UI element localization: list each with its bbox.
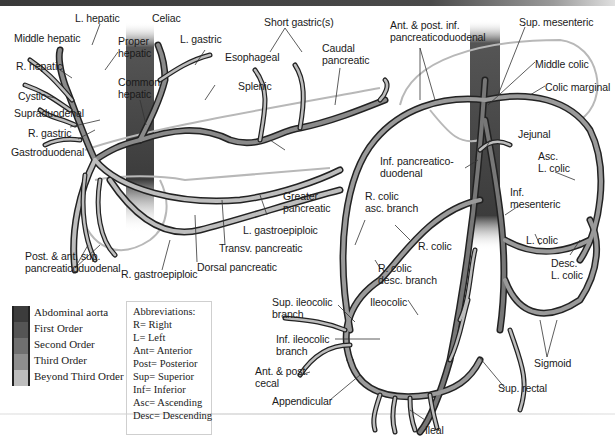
label-jejunal: Jejunal bbox=[518, 128, 551, 140]
label-gastroduodenal: Gastroduodenal bbox=[11, 146, 84, 158]
label-inf-pancreaticoduodenal: Inf. pancreatico- duodenal bbox=[380, 155, 454, 179]
abbrev-item: R= Right bbox=[133, 318, 211, 331]
label-cystic: Cystic bbox=[18, 90, 46, 102]
swatch-third-order bbox=[14, 354, 28, 370]
label-esophageal: Esophageal bbox=[225, 51, 279, 63]
swatch-beyond-third-order bbox=[14, 370, 28, 386]
label-dorsal-pancreatic: Dorsal pancreatic bbox=[197, 261, 277, 273]
label-r-gastric: R. gastric bbox=[28, 127, 71, 139]
label-l-colic: L. colic bbox=[526, 234, 558, 246]
label-sup-rectal: Sup. rectal bbox=[498, 382, 547, 394]
legend-label-third-order: Third Order bbox=[34, 354, 87, 366]
label-ileal: Ileal bbox=[425, 424, 444, 436]
label-common-hepatic: Common hepatic bbox=[118, 76, 160, 100]
abbreviations-title: Abbreviations: bbox=[133, 305, 211, 318]
label-asc-l-colic: Asc. L. colic bbox=[538, 150, 570, 174]
label-l-gastric: L. gastric bbox=[180, 33, 222, 45]
label-sigmoid: Sigmoid bbox=[534, 357, 571, 369]
abbrev-item: L= Left bbox=[133, 331, 211, 344]
legend-label-beyond-third-order: Beyond Third Order bbox=[34, 370, 124, 382]
label-proper-hepatic: Proper hepatic bbox=[118, 35, 151, 59]
label-supraduodenal: Supraduodenal bbox=[14, 107, 84, 119]
label-r-colic-asc-branch: R. colic asc. branch bbox=[365, 190, 418, 214]
swatch-abdominal-aorta bbox=[14, 306, 28, 322]
legend-label-first-order: First Order bbox=[34, 322, 83, 334]
abbrev-item: Asc= Ascending bbox=[133, 396, 211, 409]
label-post-ant-sup-pd: Post. & ant. sup. pancreaticoduodenal bbox=[25, 250, 121, 274]
label-middle-hepatic: Middle hepatic bbox=[14, 32, 80, 44]
label-splenic: Splenic bbox=[238, 80, 272, 92]
label-greater-pancreatic: Greater pancreatic bbox=[283, 190, 330, 214]
swatch-second-order bbox=[14, 338, 28, 354]
abbrev-item: Sup= Superior bbox=[133, 370, 211, 383]
label-sup-ileocolic-branch: Sup. ileocolic branch bbox=[272, 296, 332, 320]
label-transv-pancreatic: Transv. pancreatic bbox=[219, 242, 302, 254]
label-l-hepatic: L. hepatic bbox=[75, 12, 120, 24]
label-celiac: Celiac bbox=[152, 12, 181, 24]
label-inf-ileocolic-branch: Inf. ileocolic branch bbox=[276, 333, 329, 357]
label-ileocolic: Ileocolic bbox=[370, 296, 407, 308]
label-sup-mesenteric: Sup. mesenteric bbox=[519, 16, 593, 28]
label-r-colic-desc-branch: R. colic desc. branch bbox=[378, 262, 437, 286]
legend-label-abdominal-aorta: Abdominal aorta bbox=[34, 306, 108, 318]
label-desc-l-colic: Desc. L. colic bbox=[551, 257, 583, 281]
label-appendicular: Appendicular bbox=[272, 395, 332, 407]
label-r-colic: R. colic bbox=[418, 240, 452, 252]
abbrev-item: Inf= Inferior bbox=[133, 383, 211, 396]
swatch-first-order bbox=[14, 322, 28, 338]
label-inf-mesenteric: Inf. mesenteric bbox=[510, 186, 560, 210]
label-ant-post-inf-pd: Ant. & post. inf. pancreaticoduodenal bbox=[390, 19, 486, 43]
label-l-gastroepiploic: L. gastroepiploic bbox=[243, 224, 318, 236]
label-middle-colic: Middle colic bbox=[535, 58, 589, 70]
legend-swatch-column bbox=[12, 306, 30, 386]
abbrev-item: Ant= Anterior bbox=[133, 344, 211, 357]
label-r-gastroepiploic: R. gastroepiploic bbox=[121, 268, 198, 280]
label-caudal-pancreatic: Caudal pancreatic bbox=[322, 42, 369, 66]
abbrev-item: Desc= Descending bbox=[133, 409, 211, 422]
label-short-gastrics: Short gastric(s) bbox=[264, 16, 334, 28]
label-ant-post-cecal: Ant. & post. cecal bbox=[255, 365, 308, 389]
label-r-hepatic: R. hepatic bbox=[16, 60, 62, 72]
legend-label-second-order: Second Order bbox=[34, 338, 95, 350]
abbrev-item: Post= Posterior bbox=[133, 357, 211, 370]
abbreviations-box: Abbreviations: R= Right L= Left Ant= Ant… bbox=[126, 301, 212, 435]
label-colic-marginal: Colic marginal bbox=[545, 81, 610, 93]
